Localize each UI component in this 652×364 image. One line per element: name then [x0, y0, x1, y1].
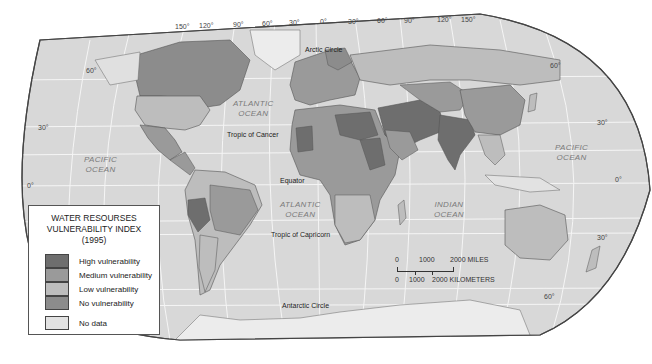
lon-label: 90°: [404, 17, 415, 24]
lat-label: 0°: [615, 176, 622, 183]
mauritania: [296, 126, 313, 152]
lon-label: 60°: [377, 17, 388, 24]
arctic-circle-label: Arctic Circle: [305, 46, 342, 53]
antarctic-circle-label: Antarctic Circle: [282, 302, 329, 309]
lon-label: 150°: [461, 16, 475, 23]
legend-item-none: No vulnerability: [45, 296, 134, 310]
scale-km-1000: 1000: [409, 276, 425, 283]
lon-label: 120°: [437, 16, 451, 23]
lat-label: 30°: [38, 124, 49, 131]
swatch-low: [45, 282, 69, 296]
legend-item-low: Low vulnerability: [45, 282, 138, 296]
lat-label: 0°: [27, 182, 34, 189]
lat-label: 60°: [86, 67, 97, 74]
scale-line: [397, 267, 454, 272]
tropic-of-cancer-label: Tropic of Cancer: [227, 131, 278, 138]
lat-label: 30°: [597, 234, 608, 241]
lat-label: 60°: [550, 62, 561, 69]
legend-item-medium: Medium vulnerability: [45, 268, 152, 282]
lon-label: 30°: [289, 19, 300, 26]
lat-label: 60°: [544, 293, 555, 300]
lon-label: 90°: [233, 21, 244, 28]
swatch-nodata: [45, 316, 69, 330]
atlantic-ocean-south-label: ATLANTICOCEAN: [280, 200, 320, 220]
pacific-ocean-east-label: PACIFICOCEAN: [555, 143, 588, 163]
swatch-medium: [45, 268, 69, 282]
swatch-none: [45, 296, 69, 310]
swatch-high: [45, 254, 69, 268]
indian-ocean-label: INDIANOCEAN: [434, 200, 464, 220]
scale-miles-1000: 1000: [419, 256, 435, 263]
lat-label: 30°: [597, 119, 608, 126]
lon-label: 60°: [262, 20, 273, 27]
legend: WATER RESOURSES VULNERABILITY INDEX (199…: [28, 205, 160, 335]
legend-item-high: High vulnerability: [45, 254, 140, 268]
legend-item-nodata: No data: [45, 316, 107, 330]
lon-label: 120°: [199, 22, 213, 29]
scale-bar: 0 1000 2000 MILES 0 1000 2000 KILOMETERS: [395, 256, 535, 296]
lon-label: 30°: [348, 18, 359, 25]
scale-miles-2000: 2000 MILES: [450, 256, 489, 263]
scale-km-0: 0: [395, 276, 399, 283]
atlantic-ocean-north-label: ATLANTICOCEAN: [233, 99, 273, 119]
tropic-of-capricorn-label: Tropic of Capricorn: [271, 231, 330, 238]
scale-miles-0: 0: [395, 256, 399, 263]
scale-km-2000: 2000 KILOMETERS: [432, 276, 495, 283]
legend-title: WATER RESOURSES VULNERABILITY INDEX (199…: [29, 213, 159, 246]
usa: [135, 96, 210, 130]
lon-label: 0°: [320, 18, 327, 25]
pacific-ocean-west-label: PACIFICOCEAN: [84, 155, 117, 175]
equator-label: Equator: [280, 177, 305, 184]
lon-label: 150°: [175, 23, 189, 30]
